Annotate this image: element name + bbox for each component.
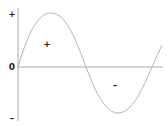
sine-diagram xyxy=(0,0,168,126)
axis-label-minus: – xyxy=(10,114,15,123)
sine-curve xyxy=(18,13,162,113)
axis-label-zero: 0 xyxy=(9,63,15,72)
region-label-negative: – xyxy=(113,81,118,90)
region-label-positive: + xyxy=(43,40,51,49)
axis-label-plus: + xyxy=(8,10,16,19)
